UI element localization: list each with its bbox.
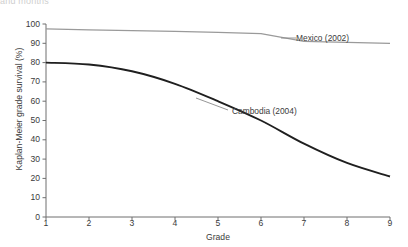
series-label-cambodia: Cambodia (2004): [232, 106, 297, 116]
x-tick-label: 9: [380, 219, 400, 228]
x-axis-title: Grade: [46, 232, 390, 242]
x-tick-label: 8: [337, 219, 357, 228]
x-tick-label: 1: [36, 219, 56, 228]
x-tick-label: 7: [294, 219, 314, 228]
x-tick-label: 5: [208, 219, 228, 228]
series-group: [46, 29, 390, 177]
kaplan-meier-grade-survival-chart: and months Kaplan-Meier grade survival (…: [0, 0, 408, 247]
x-tick-label: 2: [79, 219, 99, 228]
series-label-mexico: Mexico (2002): [296, 33, 349, 43]
series-line-cambodia: [46, 63, 390, 177]
axes-group: [43, 24, 391, 221]
x-tick-label: 4: [165, 219, 185, 228]
x-tick-label: 3: [122, 219, 142, 228]
y-axis-tick-marks: [43, 24, 47, 217]
x-tick-label: 6: [251, 219, 271, 228]
